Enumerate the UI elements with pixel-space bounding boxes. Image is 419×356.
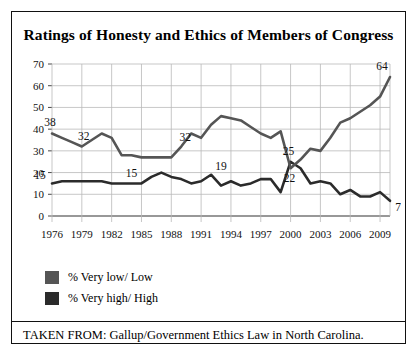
legend-item-very-low: % Very low/ Low xyxy=(45,270,158,285)
y-axis-tick-label: 40 xyxy=(33,123,45,135)
legend-label-very-high: % Very high/ High xyxy=(68,291,158,306)
x-axis-tick-label: 2003 xyxy=(309,228,332,240)
y-axis-tick-label: 50 xyxy=(33,101,45,113)
x-axis-tick-label: 2009 xyxy=(369,228,392,240)
y-axis-tick-label: 0 xyxy=(39,210,45,222)
series-line-very-low xyxy=(52,77,390,168)
data-point-label: 32 xyxy=(78,130,90,142)
y-axis-tick-label: 70 xyxy=(33,58,45,70)
chart-legend: % Very low/ Low % Very high/ High xyxy=(45,270,158,312)
y-axis-tick-label: 10 xyxy=(33,188,45,200)
x-axis-tick-label: 2006 xyxy=(339,228,362,240)
data-point-label: 22 xyxy=(284,172,296,184)
data-point-label: 19 xyxy=(215,160,227,172)
legend-label-very-low: % Very low/ Low xyxy=(68,270,153,285)
data-point-label: 25 xyxy=(283,145,295,157)
x-axis-tick-label: 1976 xyxy=(41,228,64,240)
line-chart-svg: 0102030405060701976197919821985198819911… xyxy=(18,56,401,256)
footer-divider xyxy=(12,321,405,322)
x-axis-tick-label: 2000 xyxy=(280,228,303,240)
x-axis-tick-label: 1997 xyxy=(250,228,273,240)
x-axis-tick-label: 1982 xyxy=(101,228,123,240)
x-axis-tick-label: 1985 xyxy=(130,228,153,240)
chart-card: Ratings of Honesty and Ethics of Members… xyxy=(11,11,406,344)
y-axis-tick-label: 60 xyxy=(33,80,45,92)
legend-swatch-very-high xyxy=(45,292,59,305)
x-axis-tick-label: 1991 xyxy=(190,228,212,240)
x-axis-tick-label: 1988 xyxy=(160,228,183,240)
data-point-label: 32 xyxy=(179,131,191,143)
x-axis-tick-label: 1994 xyxy=(220,228,243,240)
source-note: TAKEN FROM: Gallup/Government Ethics Law… xyxy=(23,328,364,343)
data-point-label: 64 xyxy=(376,60,388,72)
y-axis-tick-label: 30 xyxy=(33,145,45,157)
data-point-label: 7 xyxy=(395,201,401,213)
data-point-label: 15 xyxy=(126,167,138,179)
legend-item-very-high: % Very high/ High xyxy=(45,291,158,306)
data-point-label: 38 xyxy=(44,116,56,128)
legend-swatch-very-low xyxy=(45,271,59,284)
chart-title: Ratings of Honesty and Ethics of Members… xyxy=(12,26,405,44)
data-point-label: 15 xyxy=(34,169,46,181)
chart-plot-area: 0102030405060701976197919821985198819911… xyxy=(18,56,401,256)
x-axis-tick-label: 1979 xyxy=(71,228,94,240)
